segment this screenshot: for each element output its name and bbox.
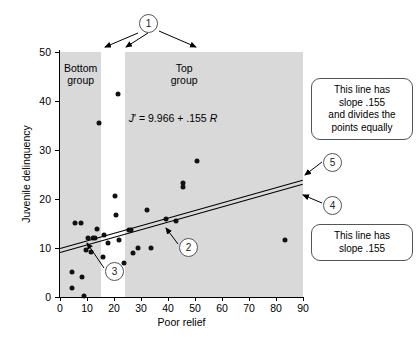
x-tick-label: 10 [76,302,98,314]
scatter-point [136,246,141,251]
y-tick [55,248,59,249]
scatter-point [113,213,118,218]
y-tick-label: 50 [29,46,51,58]
plot-area [60,52,303,297]
callout-box-slope-line2: slope .155 [318,243,406,256]
x-tick-label: 50 [184,302,206,314]
y-axis-title: Juvenile delinquency [20,94,32,254]
scatter-point [112,193,117,198]
scatter-point [88,249,93,254]
scatter-point [181,181,186,186]
callout-box-divides-points-line4: points equally [318,122,406,135]
scatter-point [282,237,287,242]
x-tick-label: 80 [265,302,287,314]
y-tick [55,150,59,151]
scatter-point [95,227,100,232]
callout-circle-1[interactable]: 1 [139,14,158,33]
x-tick [168,297,169,301]
x-tick-label: 0 [49,302,71,314]
y-tick-label: 20 [29,193,51,205]
y-tick [55,101,59,102]
regression-equation-label: J′ = 9.966 + .155 R [129,112,217,124]
x-tick-label: 90 [292,302,314,314]
callout-box-divides-points-line3: and divides the [318,109,406,122]
band-bottom-group-label-line2: group [67,74,94,86]
y-tick [55,52,59,53]
callout-circle-3[interactable]: 3 [105,262,124,281]
y-tick-label: 0 [29,291,51,303]
x-tick [249,297,250,301]
scatter-point [116,237,121,242]
x-tick-label: 30 [130,302,152,314]
scatter-point [149,246,154,251]
x-tick [60,297,61,301]
callout-box-slope-line1: This line has [318,230,406,243]
scatter-point [130,251,135,256]
band-top-group-label: Top group [125,62,243,86]
callout-circle-5[interactable]: 5 [323,153,342,172]
band-top-group-label-line1: Top [176,62,193,74]
x-tick [141,297,142,301]
scatter-point [116,91,121,96]
band-top-group [125,52,303,297]
callout-box-divides-points-line1: This line has [318,84,406,97]
callout-box-divides-points-line2: slope .155 [318,97,406,110]
equation-r: R [210,112,218,124]
y-tick [55,297,59,298]
band-bottom-group [60,52,101,297]
scatter-point [106,241,111,246]
band-top-group-label-line2: group [171,74,198,86]
y-tick-label: 10 [29,242,51,254]
scatter-point [79,221,84,226]
scatter-point [69,285,74,290]
x-tick [195,297,196,301]
x-tick [114,297,115,301]
x-tick-label: 20 [103,302,125,314]
equation-body: = 9.966 + .155 [136,112,210,124]
scatter-point [80,275,85,280]
y-axis-line [59,50,60,298]
x-tick [303,297,304,301]
x-axis-line [59,297,304,298]
scatter-point [97,120,102,125]
y-tick [55,199,59,200]
x-tick-label: 40 [157,302,179,314]
chart-figure: 010203040500102030405060708090 Poor reli… [0,0,418,346]
band-bottom-group-label-line1: Bottom [64,62,97,74]
scatter-point [81,294,86,299]
x-tick [222,297,223,301]
scatter-point [70,270,75,275]
band-bottom-group-label: Bottom group [60,62,101,86]
callout-box-divides-points: This line has slope .155 and divides the… [311,78,413,140]
callout-circle-2[interactable]: 2 [179,238,198,257]
x-tick-label: 70 [238,302,260,314]
callout-box-slope: This line has slope .155 [311,224,413,261]
x-tick [276,297,277,301]
x-tick [87,297,88,301]
y-tick-label: 40 [29,95,51,107]
x-axis-title: Poor relief [60,316,303,328]
y-tick-label: 30 [29,144,51,156]
x-tick-label: 60 [211,302,233,314]
scatter-point [195,158,200,163]
callout-circle-4[interactable]: 4 [323,196,342,215]
scatter-point [72,221,77,226]
scatter-point [145,207,150,212]
scatter-point [100,255,105,260]
